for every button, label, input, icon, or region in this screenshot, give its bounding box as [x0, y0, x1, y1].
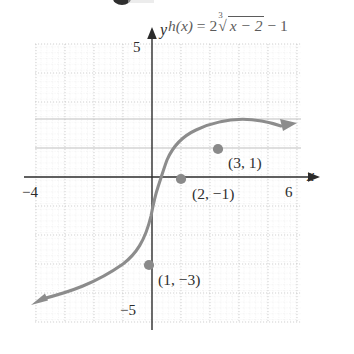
- cube-root-radical: 3√x − 2: [217, 18, 263, 34]
- equation-equals: =: [197, 17, 206, 34]
- point-label-1-minus-3: (1, −3): [158, 272, 200, 288]
- y-axis-name: y: [160, 22, 167, 38]
- y-tick-label-5: 5: [133, 40, 141, 55]
- equation-coefficient: 2: [209, 17, 217, 34]
- point-marker-1-m3: [144, 260, 154, 270]
- radicand: x − 2: [230, 17, 263, 34]
- equation-constant: − 1: [267, 17, 287, 34]
- coordinate-plane: [0, 0, 354, 354]
- x-tick-label-6: 6: [285, 185, 293, 200]
- radical-index: 3: [218, 11, 223, 20]
- y-tick-label-minus-5: −5: [120, 303, 136, 318]
- point-marker-2-m1: [176, 174, 186, 184]
- point-label-3-1: (3, 1): [228, 155, 262, 171]
- equation-lhs: h(x): [168, 17, 193, 34]
- x-tick-label-minus-4: −4: [22, 185, 38, 200]
- point-label-2-minus-1: (2, −1): [192, 186, 234, 202]
- point-marker-3-1: [213, 144, 223, 154]
- function-equation: h(x) = 23√x − 2 − 1: [168, 18, 288, 34]
- x-axis-name: x: [307, 168, 314, 184]
- graph-figure: h(x) = 23√x − 2 − 1 y x 5 −5 −4 6 (3, 1)…: [0, 0, 354, 354]
